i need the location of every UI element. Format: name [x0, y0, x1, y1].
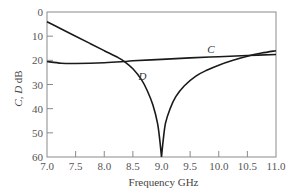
y-tick-label: 20: [32, 54, 44, 66]
x-tick-label: 8.5: [126, 160, 140, 172]
y-tick-label: 30: [32, 79, 44, 91]
x-axis-ticks: 7.07.58.08.59.09.510.010.511.0: [40, 151, 286, 172]
x-tick-label: 7.5: [69, 160, 83, 172]
x-tick-label: 10.0: [209, 160, 229, 172]
chart: 0102030405060 7.07.58.08.59.09.510.010.5…: [0, 0, 298, 193]
y-tick-label: 40: [32, 103, 44, 115]
y-axis-ticks: 0102030405060: [32, 6, 53, 163]
x-tick-label: 11.0: [267, 160, 286, 172]
x-tick-label: 8.0: [97, 160, 111, 172]
series-d-label: D: [138, 70, 147, 82]
y-tick-label: 10: [32, 30, 44, 42]
y-axis-title: C, D dB: [12, 70, 24, 106]
series-group: [47, 22, 276, 157]
x-tick-label: 7.0: [40, 160, 54, 172]
series-d-line: [47, 22, 276, 157]
series-c-line: [47, 55, 276, 64]
plot-area-frame: [47, 12, 276, 157]
x-tick-label: 9.0: [155, 160, 169, 172]
x-tick-label: 10.5: [238, 160, 258, 172]
x-axis-title: Frequency GHz: [129, 176, 199, 188]
y-tick-label: 50: [32, 127, 44, 139]
series-c-label: C: [207, 43, 215, 55]
y-tick-label: 0: [38, 6, 44, 18]
series-labels: CD: [138, 43, 216, 82]
x-tick-label: 9.5: [183, 160, 197, 172]
